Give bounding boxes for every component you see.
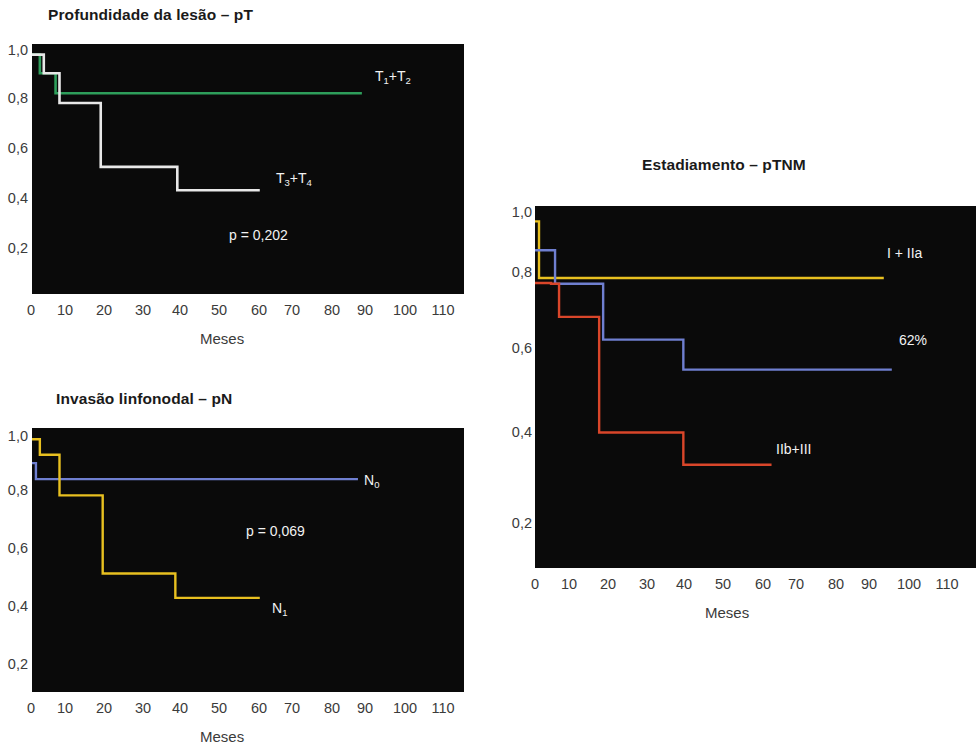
- chart-pn-xtick-80: 80: [319, 700, 345, 716]
- chart-pt-xtick-100: 100: [390, 302, 420, 318]
- chart-pn-ytick-5: 0,2: [0, 656, 28, 672]
- chart-ptnm-xtick-70: 70: [783, 576, 809, 592]
- chart-ptnm-ytick-5: 0,2: [500, 515, 532, 531]
- chart-ptnm-title: Estadiamento – pTNM: [642, 156, 806, 174]
- chart-pt-xaxis-label: Meses: [200, 330, 244, 347]
- chart-pn-xtick-110: 110: [428, 700, 458, 716]
- series-label-text-n1: N1: [272, 600, 287, 616]
- series-label-text-iib-iii: IIb+III: [776, 441, 811, 457]
- chart-pn-xtick-30: 30: [130, 700, 156, 716]
- series-label-text-62pct: 62%: [899, 332, 927, 348]
- chart-pn-xtick-0: 0: [18, 700, 44, 716]
- chart-pn-xaxis-label: Meses: [200, 728, 244, 745]
- chart-pt-ytick-5: 0,2: [0, 240, 28, 256]
- chart-pn-series-label-0: N0: [364, 472, 379, 488]
- chart-ptnm-xtick-80: 80: [823, 576, 849, 592]
- chart-pt-xtick-30: 30: [130, 302, 156, 318]
- chart-pn-ytick-1: 1,0: [0, 428, 28, 444]
- chart-pt-xtick-90: 90: [352, 302, 378, 318]
- chart-pn-series-label-1: N1: [272, 600, 287, 616]
- chart-ptnm-series-label-2: IIb+III: [776, 441, 811, 457]
- chart-pt-xtick-50: 50: [206, 302, 232, 318]
- chart-pn-xtick-60: 60: [246, 700, 272, 716]
- chart-pn-ytick-2: 0,8: [0, 482, 28, 498]
- chart-pt-title: Profundidade da lesão – pT: [48, 6, 253, 24]
- chart-pt-xtick-60: 60: [246, 302, 272, 318]
- chart-ptnm-ytick-2: 0,8: [500, 264, 532, 280]
- chart-ptnm-xtick-100: 100: [894, 576, 924, 592]
- chart-pn-xtick-10: 10: [52, 700, 78, 716]
- chart-pt-xtick-40: 40: [167, 302, 193, 318]
- chart-ptnm-xtick-0: 0: [522, 576, 548, 592]
- chart-ptnm-xaxis-label: Meses: [705, 604, 749, 621]
- series-label-text-i-iia: I + IIa: [887, 245, 922, 261]
- chart-ptnm-xtick-40: 40: [671, 576, 697, 592]
- chart-pt-ytick-4: 0,4: [0, 190, 28, 206]
- chart-pn-xtick-90: 90: [352, 700, 378, 716]
- chart-pn-xtick-40: 40: [167, 700, 193, 716]
- series-label-text-t3t4: T3+T4: [276, 170, 312, 186]
- chart-pt-series-label-0: T1+T2: [375, 68, 411, 84]
- chart-pt-ytick-2: 0,8: [0, 90, 28, 106]
- chart-pt-xtick-70: 70: [279, 302, 305, 318]
- chart-ptnm: Estadiamento – pTNM 1,0 0,8 0,6 0,4 0,2 …: [500, 150, 976, 650]
- chart-pt: Profundidade da lesão – pT 1,0 0,8 0,6 0…: [0, 0, 480, 360]
- series-label-text-n0: N0: [364, 472, 379, 488]
- chart-pt-pvalue: p = 0,202: [229, 227, 288, 243]
- chart-pn-pvalue: p = 0,069: [246, 523, 305, 539]
- chart-pt-xtick-80: 80: [319, 302, 345, 318]
- series-label-text-t1t2: T1+T2: [375, 68, 411, 84]
- chart-ptnm-xtick-110: 110: [932, 576, 962, 592]
- chart-ptnm-series-label-0: I + IIa: [887, 245, 922, 261]
- chart-ptnm-ytick-3: 0,6: [500, 340, 532, 356]
- chart-ptnm-xtick-20: 20: [595, 576, 621, 592]
- chart-ptnm-ytick-4: 0,4: [500, 424, 532, 440]
- chart-pt-ytick-1: 1,0: [0, 42, 28, 58]
- chart-pt-xtick-10: 10: [52, 302, 78, 318]
- chart-pt-ytick-3: 0,6: [0, 140, 28, 156]
- chart-pn-xtick-70: 70: [279, 700, 305, 716]
- chart-ptnm-xtick-50: 50: [710, 576, 736, 592]
- chart-ptnm-xtick-10: 10: [556, 576, 582, 592]
- chart-pt-xtick-110: 110: [428, 302, 458, 318]
- chart-pt-xtick-20: 20: [91, 302, 117, 318]
- chart-pn: Invasão linfonodal – pN 1,0 0,8 0,6 0,4 …: [0, 386, 480, 746]
- chart-ptnm-xtick-90: 90: [856, 576, 882, 592]
- chart-pn-xtick-20: 20: [91, 700, 117, 716]
- chart-ptnm-xtick-60: 60: [750, 576, 776, 592]
- chart-ptnm-series-label-1: 62%: [899, 332, 927, 348]
- chart-pn-ytick-3: 0,6: [0, 540, 28, 556]
- chart-pn-ytick-4: 0,4: [0, 598, 28, 614]
- chart-pt-series-label-1: T3+T4: [276, 170, 312, 186]
- chart-pn-xtick-100: 100: [390, 700, 420, 716]
- chart-ptnm-ytick-1: 1,0: [500, 204, 532, 220]
- chart-pt-xtick-0: 0: [18, 302, 44, 318]
- chart-pn-plot: [32, 428, 464, 692]
- chart-pn-title: Invasão linfonodal – pN: [56, 390, 232, 408]
- chart-pn-xtick-50: 50: [206, 700, 232, 716]
- chart-ptnm-xtick-30: 30: [634, 576, 660, 592]
